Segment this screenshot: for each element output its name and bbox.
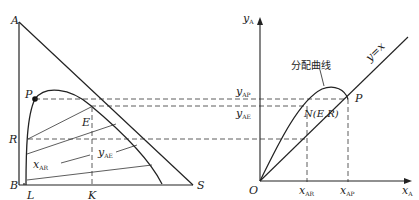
- tick-y-AE: yAE: [235, 107, 251, 120]
- curve-label-pointer: [320, 70, 324, 86]
- vertex-S: S: [197, 179, 205, 192]
- tick-x-AR: xAR: [299, 184, 315, 197]
- y-axis-label: yA: [242, 12, 254, 25]
- origin-label: O: [249, 184, 258, 197]
- distribution-curve: [260, 87, 348, 181]
- vertex-B: B: [9, 179, 18, 192]
- tick-x-AP: xAP: [340, 184, 355, 197]
- label-y-AE: yAE: [97, 146, 113, 159]
- axes: [260, 20, 408, 181]
- diagonal-label: y=x: [362, 39, 388, 65]
- tick-y-AP: yAP: [235, 85, 251, 98]
- y-axis-arrow-icon: [257, 17, 263, 25]
- vertex-A: A: [10, 14, 19, 27]
- point-L: L: [26, 189, 34, 200]
- ternary-triangle: [19, 22, 193, 185]
- point-P-left: P: [24, 88, 33, 101]
- point-P-right: P: [354, 92, 363, 105]
- curve-label: 分配曲线: [291, 59, 331, 71]
- point-E: E: [81, 116, 90, 129]
- label-x-AR: xAR: [33, 158, 49, 171]
- distribution-diagram: A B S P R E L K xAR yAE yA xA O 分配曲线 y=x…: [0, 0, 419, 200]
- point-K: K: [87, 189, 97, 200]
- point-R: R: [8, 133, 17, 146]
- point-N: N(E,R): [303, 108, 339, 119]
- x-axis-label: xA: [402, 184, 413, 197]
